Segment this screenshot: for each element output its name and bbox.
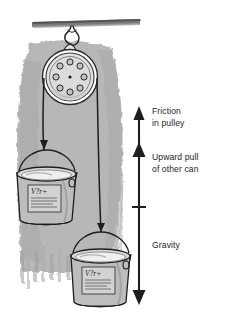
label-upward-line2: of other can [152,164,199,176]
force-scale-arrow [132,106,146,305]
label-friction: Friction in pulley [152,106,184,129]
pulley-holes [53,59,87,95]
label-friction-line1: Friction [152,106,184,118]
label-gravity: Gravity [152,240,180,252]
label-friction-line2: in pulley [152,118,184,130]
label-upward-pull: Upward pull of other can [152,152,199,175]
friction-arrowhead [134,106,145,120]
paint-can-lower-label-text: V?r+ [85,269,101,278]
illustration-canvas: V?r+ V?r+ [0,0,227,318]
paint-can-upper-label-text: V?r+ [31,187,47,196]
gravity-arrowhead [133,290,146,305]
label-upward-line1: Upward pull [152,152,199,164]
upward-pull-arrowhead [133,142,146,157]
pulley-wheel [43,50,98,105]
ceiling-beam [32,19,141,28]
label-gravity-line1: Gravity [152,240,180,252]
